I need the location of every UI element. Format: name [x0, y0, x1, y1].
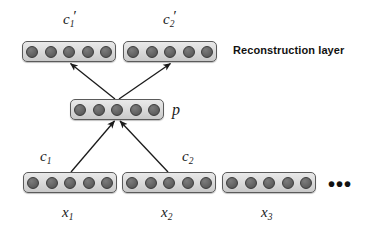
node [64, 177, 76, 189]
node [245, 177, 257, 189]
node [263, 177, 275, 189]
node [26, 46, 38, 58]
vector-box-p[interactable] [70, 99, 164, 120]
label-p: p [172, 102, 180, 118]
node [101, 177, 113, 189]
arrow-c1-to-p [71, 121, 115, 172]
node [146, 46, 158, 58]
node [126, 177, 138, 189]
node [82, 46, 94, 58]
node [111, 104, 123, 116]
vector-box-c2-prime[interactable] [123, 41, 217, 62]
node [183, 46, 195, 58]
label-c1-prime: c1′ [63, 12, 78, 27]
arrow-layer [0, 0, 365, 239]
node [46, 177, 58, 189]
node [200, 177, 212, 189]
label-c2-prime: c2′ [163, 12, 178, 27]
node [63, 46, 75, 58]
autoencoder-diagram: c1′ c2′ Reconstruction layer p c1 [0, 0, 365, 239]
reconstruction-layer-caption: Reconstruction layer [233, 44, 344, 56]
label-c1: c1 [40, 149, 51, 164]
label-x1: x1 [62, 205, 73, 220]
arrow-p-to-c1prime [71, 64, 116, 100]
prime-mark: ′ [172, 8, 175, 24]
vector-box-c1-prime[interactable] [22, 41, 116, 62]
prime-mark: ′ [72, 8, 75, 24]
node [201, 46, 213, 58]
node [182, 177, 194, 189]
node [163, 177, 175, 189]
node [130, 104, 142, 116]
label-c2: c2 [182, 149, 193, 164]
node [83, 177, 95, 189]
node [100, 46, 112, 58]
label-x2: x2 [161, 205, 172, 220]
node [300, 177, 312, 189]
vector-box-x2[interactable] [122, 172, 216, 193]
node [145, 177, 157, 189]
ellipsis-more-inputs: ••• [328, 174, 352, 194]
node [27, 177, 39, 189]
node [93, 104, 105, 116]
label-x3: x3 [261, 205, 272, 220]
vector-box-x3[interactable] [222, 172, 316, 193]
arrow-p-to-c2prime [119, 64, 171, 100]
node [74, 104, 86, 116]
node [127, 46, 139, 58]
arrow-c2-to-p [120, 121, 168, 172]
node [282, 177, 294, 189]
node [164, 46, 176, 58]
node [45, 46, 57, 58]
node [148, 104, 160, 116]
node [226, 177, 238, 189]
vector-box-x1[interactable] [23, 172, 117, 193]
